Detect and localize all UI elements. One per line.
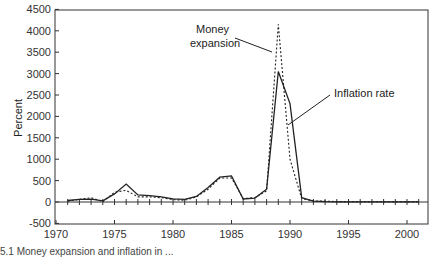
y-tick-label: 1000 — [27, 153, 51, 165]
plot-frame — [55, 10, 428, 224]
money-expansion-label-line2: expansion — [190, 37, 240, 49]
y-tick-label: 4500 — [27, 3, 51, 15]
inflation-rate-label: Inflation rate — [334, 87, 395, 99]
y-tick-label: 1500 — [27, 132, 51, 144]
x-tick-label: 1995 — [336, 228, 360, 240]
x-tick-label: 1985 — [219, 228, 243, 240]
inflation-rate-leader — [288, 95, 330, 125]
x-tick-label: 1970 — [44, 228, 68, 240]
y-tick-label: 500 — [33, 175, 51, 187]
x-tick-label: 1980 — [161, 228, 185, 240]
money-expansion-leader — [235, 38, 272, 52]
y-axis-label: Percent — [12, 99, 24, 137]
y-tick-label: 0 — [45, 196, 51, 208]
x-tick-label: 1990 — [278, 228, 302, 240]
money-expansion-label-line1: Money — [196, 23, 230, 35]
y-tick-label: 3000 — [27, 68, 51, 80]
y-tick-label: 2000 — [27, 110, 51, 122]
x-tick-label: 1975 — [102, 228, 126, 240]
y-tick-label: 4000 — [27, 25, 51, 37]
money-expansion-line — [68, 24, 419, 201]
x-tick-label: 2000 — [395, 228, 419, 240]
figure-caption: 5.1 Money expansion and inflation in ... — [0, 246, 173, 257]
y-tick-label: 2500 — [27, 89, 51, 101]
y-tick-label: 3500 — [27, 46, 51, 58]
